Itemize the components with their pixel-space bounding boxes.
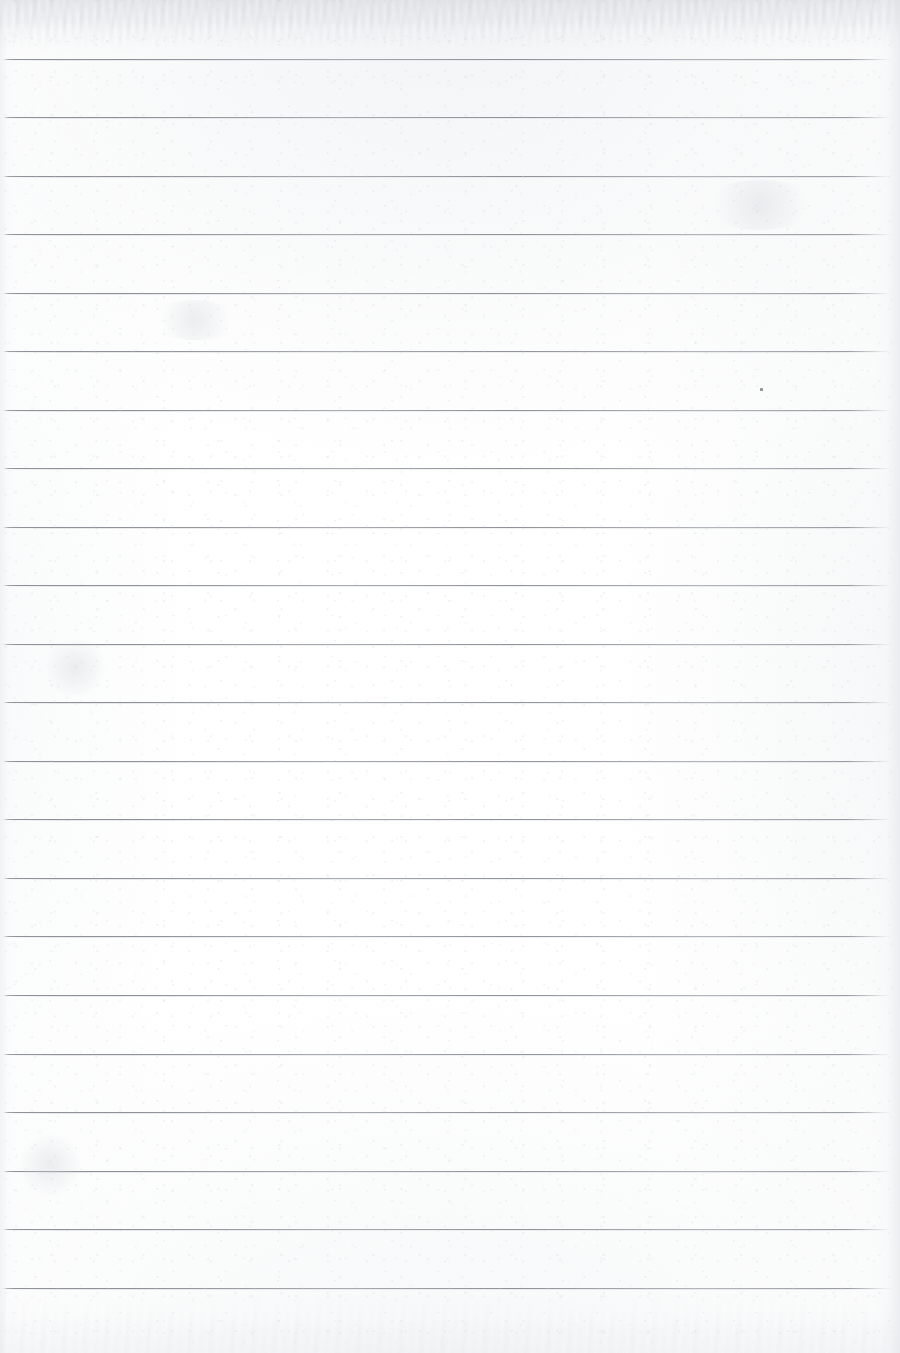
scanned-page <box>0 0 900 1353</box>
ruled-line <box>3 468 892 469</box>
ruled-line <box>3 410 892 411</box>
ruled-line <box>3 1229 892 1230</box>
ruled-line <box>3 351 892 352</box>
ruled-line <box>3 761 892 762</box>
ruled-line <box>3 644 892 645</box>
ruled-line <box>3 995 892 996</box>
ruled-line <box>3 936 892 937</box>
ruled-line <box>3 702 892 703</box>
ruled-line <box>3 1112 892 1113</box>
ruled-line <box>3 59 892 60</box>
ruled-line <box>3 527 892 528</box>
ruled-line <box>3 1171 892 1172</box>
ruled-line <box>3 819 892 820</box>
ruled-line <box>3 1288 892 1289</box>
ruled-line <box>3 117 892 118</box>
ruled-line <box>3 234 892 235</box>
scan-speck <box>760 388 763 391</box>
ruled-line <box>3 1054 892 1055</box>
ruled-line <box>3 585 892 586</box>
ruled-line <box>3 293 892 294</box>
ruled-line <box>3 176 892 177</box>
ruled-line <box>3 878 892 879</box>
ruled-lines-group <box>0 0 900 1353</box>
